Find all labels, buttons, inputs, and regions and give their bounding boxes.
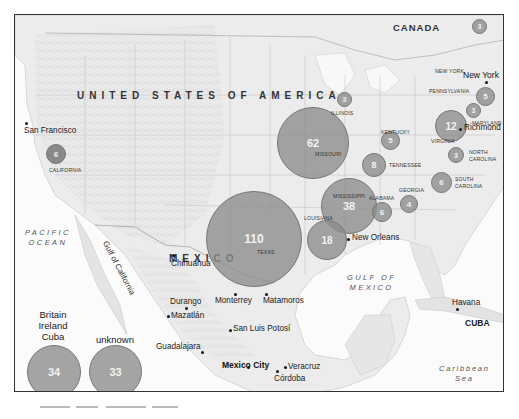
city-label-san-luis-potosi: San Luis Potosí [233,325,290,333]
state-label-illinois: ILLINOIS [331,110,353,116]
city-label-matamoros: Matamoros [263,297,304,305]
city-dot-san-luis-potosi [229,329,232,332]
state-label-kentucky: KENTUCKY [381,129,410,135]
bubble-missouri[interactable]: 62 [277,107,349,179]
city-label-san-francisco: San Francisco [24,127,76,135]
city-dot-mazatlan [167,315,170,318]
legend-bubble-unknown[interactable]: 33 [89,345,142,392]
city-label-chihuahua: Chihuahua [171,260,211,268]
city-label-havana: Havana [452,299,480,307]
city-dot-san-francisco [25,122,28,125]
city-dot-new-york [485,81,488,84]
legend-bubble-britain-ireland-cuba[interactable]: 34 [27,345,81,392]
city-dot-havana [456,308,459,311]
city-label-monterrey: Monterrey [215,297,252,305]
city-label-mexico-city: Mexico City [222,361,269,370]
legend-title-line-3: Cuba [29,332,77,343]
bubble-maryland[interactable]: 3 [466,103,481,118]
water-label-gulf-of-mexico: GULF OF MEXICO [347,274,396,291]
city-dot-cordoba [276,370,279,373]
state-label-mississippi: MISSISSIPPI [333,193,365,199]
city-label-new-orleans: New Orleans [352,234,399,242]
bubble-tennessee[interactable]: 8 [362,153,386,177]
state-label-pennsylvania: PENNSYLVANIA [429,88,469,94]
state-label-missouri: MISSOURI [315,151,342,157]
country-label-cuba: CUBA [465,319,490,328]
city-dot-guadalajara [201,351,204,354]
city-label-richmond: Richmond [464,124,501,132]
country-label-usa: UNITED STATES OF AMERICA [77,91,341,101]
map-frame: UNITED STATES OF AMERICA CANADA MEXICO C… [14,14,504,392]
caribbean-line-2: Sea [439,375,490,383]
country-label-canada: CANADA [393,23,440,33]
state-label-georgia: GEORGIA [399,187,424,193]
north-carolina-line-1: NORTH [469,149,496,155]
state-label-alabama: ALABAMA [369,195,394,201]
bubble-south-carolina[interactable]: 6 [431,172,452,193]
city-dot-durango [185,307,188,310]
bubble-texas[interactable]: 110 [206,191,302,287]
bubble-new-york-city[interactable]: 5 [476,87,495,106]
bubble-georgia[interactable]: 4 [400,195,418,213]
water-label-caribbean: Caribbean Sea [439,365,490,382]
state-label-new-york: NEW YORK [435,68,464,74]
city-label-cordoba: Córdoba [274,375,305,383]
pacific-line-1: PACIFIC [25,229,71,237]
bubble-upstate-new-york[interactable]: 3 [472,19,487,34]
bubble-illinois[interactable]: 3 [337,92,352,107]
city-dot-new-orleans [347,238,350,241]
city-dot-mexico-city [247,366,250,369]
caribbean-line-1: Caribbean [439,365,490,373]
state-label-north-carolina: NORTH CAROLINA [469,149,496,162]
bubble-alabama[interactable]: 6 [372,202,392,222]
pacific-line-2: OCEAN [25,239,71,247]
water-label-pacific: PACIFIC OCEAN [25,229,71,246]
south-carolina-line-2: CAROLINA [455,183,482,189]
south-carolina-line-1: SOUTH [455,176,482,182]
legend-title-britain-ireland-cuba: Britain Ireland Cuba [29,310,77,343]
state-label-virginia: VIRGINIA [431,138,455,144]
city-label-new-york: New York [463,71,499,80]
north-carolina-line-2: CAROLINA [469,156,496,162]
state-label-south-carolina: SOUTH CAROLINA [455,176,482,189]
city-label-guadalajara: Guadalajara [156,343,201,351]
city-dot-veracruz [284,366,287,369]
gulf-mexico-line-1: GULF OF [347,274,396,282]
state-label-california: CALIFORNIA [49,167,81,173]
gulf-mexico-line-2: MEXICO [347,284,396,292]
state-label-tennessee: TENNESSEE [389,162,421,168]
state-label-louisiana: LOUISIANA [304,215,333,221]
state-label-texas: TEXAS [257,249,275,255]
city-label-veracruz: Veracruz [288,363,320,371]
city-dot-richmond [459,128,462,131]
city-dot-chihuahua [172,254,175,257]
clipped-caption [40,404,210,408]
bubble-california[interactable]: 6 [46,144,66,164]
city-label-durango: Durango [170,298,201,306]
bubble-louisiana-coast[interactable]: 18 [307,220,347,260]
bubble-north-carolina[interactable]: 3 [448,147,464,163]
city-label-mazatlan: Mazatlán [171,312,204,320]
